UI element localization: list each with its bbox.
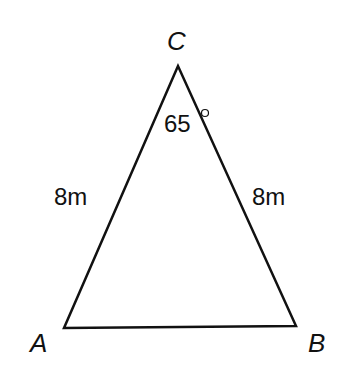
vertex-label-b: B (308, 328, 325, 358)
vertex-label-c: C (167, 26, 186, 56)
triangle-diagram: C A B 8m 8m 65 (0, 0, 340, 369)
degree-symbol-icon (202, 110, 209, 117)
vertex-label-a: A (28, 328, 47, 358)
side-label-cb: 8m (252, 183, 285, 210)
angle-c-value: 65 (164, 110, 191, 137)
side-label-ca: 8m (54, 183, 87, 210)
